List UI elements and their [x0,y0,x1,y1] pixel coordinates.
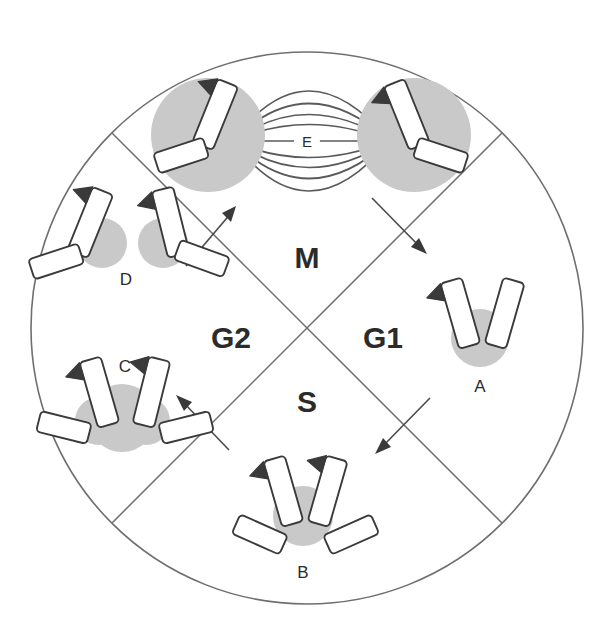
flow-arrow-m-to-g1 [372,198,427,254]
stage-b-group: B [232,451,379,582]
phase-label-s: S [297,385,317,418]
stage-label-c: C [119,357,131,376]
stage-label-d: D [120,270,132,289]
stage-e-spindle-group: E [151,72,471,192]
stage-label-a: A [474,377,486,396]
stage-d-group: D [28,180,230,289]
chromosome-d-left [28,180,127,279]
stage-a-group: A [424,278,525,396]
stage-label-e: E [302,133,312,150]
phase-label-g2: G2 [211,321,251,354]
phase-label-m: M [295,241,320,274]
flow-arrow-g1-to-s [375,398,430,454]
cell-cycle-figure: M G1 S G2 [0,0,606,640]
stage-label-b: B [297,563,308,582]
phase-label-g1: G1 [363,321,403,354]
daughter-nucleus-right [357,78,471,192]
cell-cycle-diagram: M G1 S G2 [0,0,606,640]
